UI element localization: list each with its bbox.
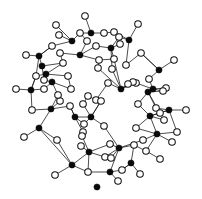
atom-node-open (138, 50, 145, 57)
atom-node-filled (108, 45, 114, 51)
atom-node-open (23, 52, 30, 59)
atom-node-filled (86, 149, 92, 155)
atom-node-open (53, 22, 60, 29)
atom-node-open (135, 21, 142, 28)
atom-node-open (41, 77, 48, 84)
atom-node-filled (28, 87, 34, 93)
atom-node-filled (154, 131, 160, 137)
atom-node-filled (128, 160, 134, 166)
atom-node-open (123, 62, 130, 69)
atom-node-filled (166, 107, 172, 113)
atom-node-open (183, 107, 190, 114)
molecular-diagram-canvas (0, 0, 202, 199)
atom-node-open (108, 155, 115, 162)
atom-node-open (60, 60, 67, 67)
atom-node-open (56, 32, 63, 39)
atom-node-filled (88, 114, 94, 120)
atom-node-open (85, 169, 92, 176)
atom-node-open (21, 134, 28, 141)
atom-node-filled (39, 63, 45, 69)
atom-node-open (95, 65, 102, 72)
atom-node-filled (77, 52, 83, 58)
atom-node-open (98, 98, 105, 105)
atom-node-open (169, 139, 176, 146)
atom-node-filled (48, 106, 54, 112)
atom-node-open (84, 38, 91, 45)
bond-line (57, 140, 72, 165)
atom-node-filled (116, 145, 122, 151)
atom-node-open (65, 73, 72, 80)
atom-node-open (119, 167, 126, 174)
atom-node-open (125, 81, 132, 88)
atom-node-open (174, 129, 181, 136)
atom-node-filled (69, 38, 75, 44)
atom-node-open (115, 178, 122, 185)
atom-node-open (105, 80, 112, 87)
atom-node-open (29, 107, 36, 114)
atom-node-open (85, 93, 92, 100)
atom-node-filled (118, 86, 124, 92)
atom-node-filled (147, 113, 153, 119)
atom-node-open (81, 121, 88, 128)
atom-node-open (161, 117, 168, 124)
atom-node-open (160, 88, 167, 95)
atom-node-open (13, 86, 20, 93)
atom-node-open (137, 171, 144, 178)
molecular-structure-svg (0, 0, 202, 199)
atom-node-open (107, 141, 114, 148)
atom-node-open (116, 34, 123, 41)
atom-node-open (111, 56, 118, 63)
bond-line (39, 128, 72, 165)
atom-node-open (157, 110, 164, 117)
atom-node-open (135, 101, 142, 108)
atom-node-open (101, 30, 108, 37)
atom-node-open (157, 156, 164, 163)
bond-line (114, 59, 121, 89)
atom-node-filled (156, 67, 162, 73)
atom-node-filled (145, 89, 151, 95)
atom-node-filled (107, 169, 113, 175)
atom-node-open (96, 57, 103, 64)
atom-node-open (131, 142, 138, 149)
atom-node-open (143, 148, 150, 155)
atom-node-filled (49, 79, 55, 85)
bond-line (39, 109, 51, 128)
atom-node-open (80, 101, 87, 108)
atom-node-open (68, 86, 75, 93)
atom-node-open (77, 30, 84, 37)
atom-node-open (57, 50, 64, 57)
atom-node-open (101, 123, 108, 130)
atom-node-open (79, 133, 86, 140)
atom-node-filled (69, 162, 75, 168)
atom-node-filled (88, 30, 94, 36)
atom-node-open (52, 172, 59, 179)
atom-node-filled (126, 37, 132, 43)
atom-node-open (49, 43, 56, 50)
atom-node-filled (43, 71, 49, 77)
atom-node-open (55, 92, 62, 99)
atom-node-open (133, 125, 140, 132)
atom-node-filled (94, 184, 100, 190)
atom-node-open (117, 41, 124, 48)
atom-node-open (54, 137, 61, 144)
atom-node-filled (36, 53, 42, 59)
atom-node-filled (36, 125, 42, 131)
atom-node-open (93, 43, 100, 50)
atom-node-open (171, 57, 178, 64)
atom-node-open (33, 73, 40, 80)
node-layer (13, 13, 190, 190)
atom-node-open (41, 86, 48, 93)
atom-node-open (109, 66, 116, 73)
atom-node-open (146, 76, 153, 83)
atom-node-filled (72, 114, 78, 120)
atom-node-open (78, 143, 85, 150)
atom-node-open (140, 137, 147, 144)
atom-node-open (67, 103, 74, 110)
atom-node-open (82, 13, 89, 20)
